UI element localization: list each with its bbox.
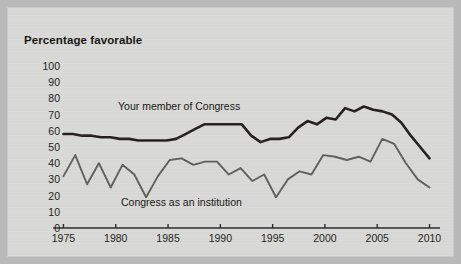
x-tick-label: 1985 xyxy=(148,232,188,244)
series-annotation-your-member-of-congress: Your member of Congress xyxy=(118,100,240,112)
chart-figure: Percentage favorable 0102030405060708090… xyxy=(8,8,453,256)
x-tick-label: 1995 xyxy=(253,232,293,244)
x-tick-label: 2000 xyxy=(305,232,345,244)
series-annotation-congress-as-an-institution: Congress as an institution xyxy=(121,196,242,208)
x-tick-label: 1990 xyxy=(200,232,240,244)
x-tick-label: 2005 xyxy=(357,232,397,244)
x-axis-tick-labels: 19751980198519901995200020052010 xyxy=(8,8,453,256)
x-tick-label: 1975 xyxy=(43,232,83,244)
x-tick-label: 2010 xyxy=(410,232,450,244)
x-tick-label: 1980 xyxy=(96,232,136,244)
